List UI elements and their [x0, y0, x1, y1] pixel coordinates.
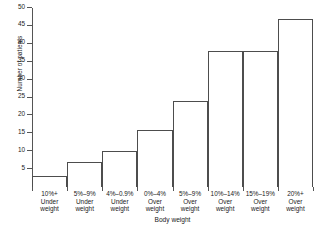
- x-axis-tick-label: 0%–4%Overweight: [137, 190, 172, 213]
- y-axis-tick-label: 40: [18, 38, 25, 45]
- x-axis-tick-label-line: Under: [67, 198, 102, 206]
- bar: [243, 51, 278, 187]
- x-axis-tick-label-line: weight: [32, 205, 67, 213]
- x-axis-tick-label: 10%+Underweight: [32, 190, 67, 213]
- x-axis-tick-label-line: 10%+: [32, 190, 67, 198]
- x-axis-tick-label-line: 4%–0.9%: [102, 190, 137, 198]
- y-axis-tick-label: 35: [18, 56, 25, 63]
- x-axis-tick-label-line: 20%+: [278, 190, 313, 198]
- y-axis-tick-label: 30: [18, 74, 25, 81]
- x-axis-tick-label-line: Under: [102, 198, 137, 206]
- x-axis-tick-label-line: 5%–9%: [67, 190, 102, 198]
- x-axis-tick-label-line: weight: [173, 205, 208, 213]
- y-axis-tick-label: 10: [18, 146, 25, 153]
- x-axis-tick-label: 4%–0.9%Underweight: [102, 190, 137, 213]
- x-axis-tick-label: 5%–9%Underweight: [67, 190, 102, 213]
- x-axis-tick-label: 15%–19%Overweight: [243, 190, 278, 213]
- x-axis-tick-label-line: weight: [278, 205, 313, 213]
- x-axis-tick-label: 10%–14%Overweight: [208, 190, 243, 213]
- bar: [173, 101, 208, 187]
- bar: [32, 176, 67, 187]
- y-axis-tick-label: 50: [18, 3, 25, 10]
- x-axis-tick-label-line: weight: [243, 205, 278, 213]
- bar-series: [32, 8, 313, 187]
- x-axis-tick-label-line: weight: [102, 205, 137, 213]
- x-axis-tick-label: 5%–9%Overweight: [173, 190, 208, 213]
- x-axis-tick-label-line: Over: [278, 198, 313, 206]
- bar-chart-figure: Number of patients 5101520253035404550 1…: [0, 0, 319, 230]
- x-axis-tick-label-line: 10%–14%: [208, 190, 243, 198]
- x-axis-tick-label-line: Over: [208, 198, 243, 206]
- x-axis-tick-label-line: 15%–19%: [243, 190, 278, 198]
- y-axis-tick-label: 15: [18, 128, 25, 135]
- bar: [208, 51, 243, 187]
- x-axis-tick-label-line: weight: [208, 205, 243, 213]
- x-axis-tick-label-line: Over: [137, 198, 172, 206]
- y-axis-tick-label: 20: [18, 110, 25, 117]
- x-axis-tick-label-line: 5%–9%: [173, 190, 208, 198]
- x-axis-tick-label-line: weight: [137, 205, 172, 213]
- x-axis-tick-label: 20%+Overweight: [278, 190, 313, 213]
- bar: [67, 162, 102, 187]
- bar: [137, 130, 172, 187]
- x-axis-tick-labels: 10%+Underweight5%–9%Underweight4%–0.9%Un…: [32, 190, 313, 216]
- bar: [278, 19, 313, 187]
- x-axis-tick-label-line: 0%–4%: [137, 190, 172, 198]
- x-axis-tick-label-line: weight: [67, 205, 102, 213]
- x-axis-tick-label-line: Over: [243, 198, 278, 206]
- plot-area: 5101520253035404550: [32, 8, 313, 187]
- x-axis-tick: [313, 187, 314, 191]
- y-axis-tick-label: 25: [18, 92, 25, 99]
- y-axis-tick-label: 5: [21, 164, 25, 171]
- y-axis-tick-label: 45: [18, 20, 25, 27]
- x-axis-tick-label-line: Over: [173, 198, 208, 206]
- x-axis-tick-label-line: Under: [32, 198, 67, 206]
- bar: [102, 151, 137, 187]
- x-axis-title: Body weight: [32, 216, 313, 223]
